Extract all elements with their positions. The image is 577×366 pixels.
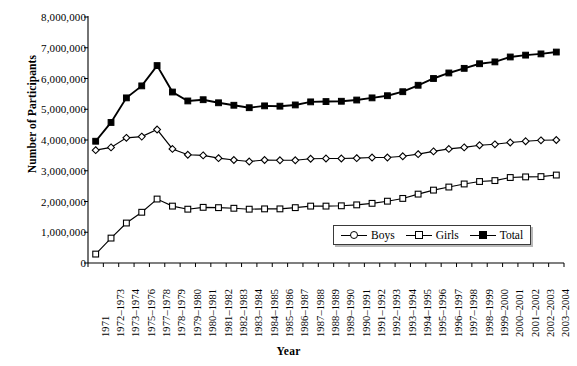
x-tick-label: 1991–1992 bbox=[376, 289, 387, 337]
y-axis-tick-labels: 01,000,0002,000,0003,000,0004,000,0005,0… bbox=[0, 0, 86, 366]
x-tick-label: 1972–1973 bbox=[115, 289, 126, 337]
x-tick-label: 1979–1980 bbox=[192, 289, 203, 337]
y-tick-label: 0 bbox=[80, 257, 86, 269]
x-tick-label: 2002–2003 bbox=[545, 289, 556, 337]
legend-label-total: Total bbox=[500, 229, 523, 241]
x-tick-label: 1980–1981 bbox=[207, 289, 218, 337]
boys-marker-icon bbox=[341, 230, 367, 240]
y-tick-label: 7,000,000 bbox=[41, 42, 86, 54]
x-tick-label: 1987–1988 bbox=[315, 289, 326, 337]
x-tick-label: 1984–1985 bbox=[269, 289, 280, 337]
x-tick-label: 1973–1974 bbox=[130, 289, 141, 337]
legend-item-total: Total bbox=[470, 229, 523, 241]
x-tick-label: 1990–1991 bbox=[361, 289, 372, 337]
legend-label-girls: Girls bbox=[436, 229, 459, 241]
girls-marker-icon bbox=[406, 230, 432, 240]
y-tick-label: 8,000,000 bbox=[41, 11, 86, 23]
y-tick-label: 4,000,000 bbox=[41, 134, 86, 146]
x-tick-label: 1994–1995 bbox=[422, 289, 433, 337]
x-tick-label: 1971 bbox=[100, 316, 111, 337]
y-tick-label: 3,000,000 bbox=[41, 165, 86, 177]
x-tick-label: 1985–1986 bbox=[284, 289, 295, 337]
x-tick-label: 1998–1999 bbox=[484, 289, 495, 337]
y-tick-label: 1,000,000 bbox=[41, 226, 86, 238]
y-tick-label: 5,000,000 bbox=[41, 103, 86, 115]
x-tick-label: 1981–1982 bbox=[223, 289, 234, 337]
x-tick-label: 1993–1994 bbox=[407, 289, 418, 337]
x-tick-label: 1982–1983 bbox=[238, 289, 249, 337]
x-tick-label: 1978–1979 bbox=[176, 289, 187, 337]
x-tick-label: 2001–2002 bbox=[530, 289, 541, 337]
chart-legend: Boys Girls Total bbox=[333, 225, 531, 245]
x-tick-label: 1986–1987 bbox=[299, 289, 310, 337]
x-tick-label: 1997–1998 bbox=[468, 289, 479, 337]
x-tick-label: 2003–2004 bbox=[560, 289, 571, 337]
x-axis-title: Year bbox=[0, 345, 577, 357]
legend-item-girls: Girls bbox=[406, 229, 459, 241]
x-tick-label: 1996–1997 bbox=[453, 289, 464, 337]
x-tick-label: 1989–1990 bbox=[345, 289, 356, 337]
x-tick-label: 1988–1989 bbox=[330, 289, 341, 337]
x-tick-label: 1992–1993 bbox=[391, 289, 402, 337]
x-tick-label: 2000–2001 bbox=[514, 289, 525, 337]
participation-line-chart: Number of Participants 01,000,0002,000,0… bbox=[0, 0, 577, 366]
total-marker-icon bbox=[470, 230, 496, 240]
y-tick-label: 6,000,000 bbox=[41, 73, 86, 85]
x-tick-label: 1995–1996 bbox=[437, 289, 448, 337]
x-tick-label: 1975–1976 bbox=[146, 289, 157, 337]
x-tick-label: 1999–2000 bbox=[499, 289, 510, 337]
legend-label-boys: Boys bbox=[371, 229, 395, 241]
x-tick-label: 1983–1984 bbox=[253, 289, 264, 337]
legend-item-boys: Boys bbox=[341, 229, 395, 241]
x-tick-label: 1977–1978 bbox=[161, 289, 172, 337]
y-tick-label: 2,000,000 bbox=[41, 196, 86, 208]
